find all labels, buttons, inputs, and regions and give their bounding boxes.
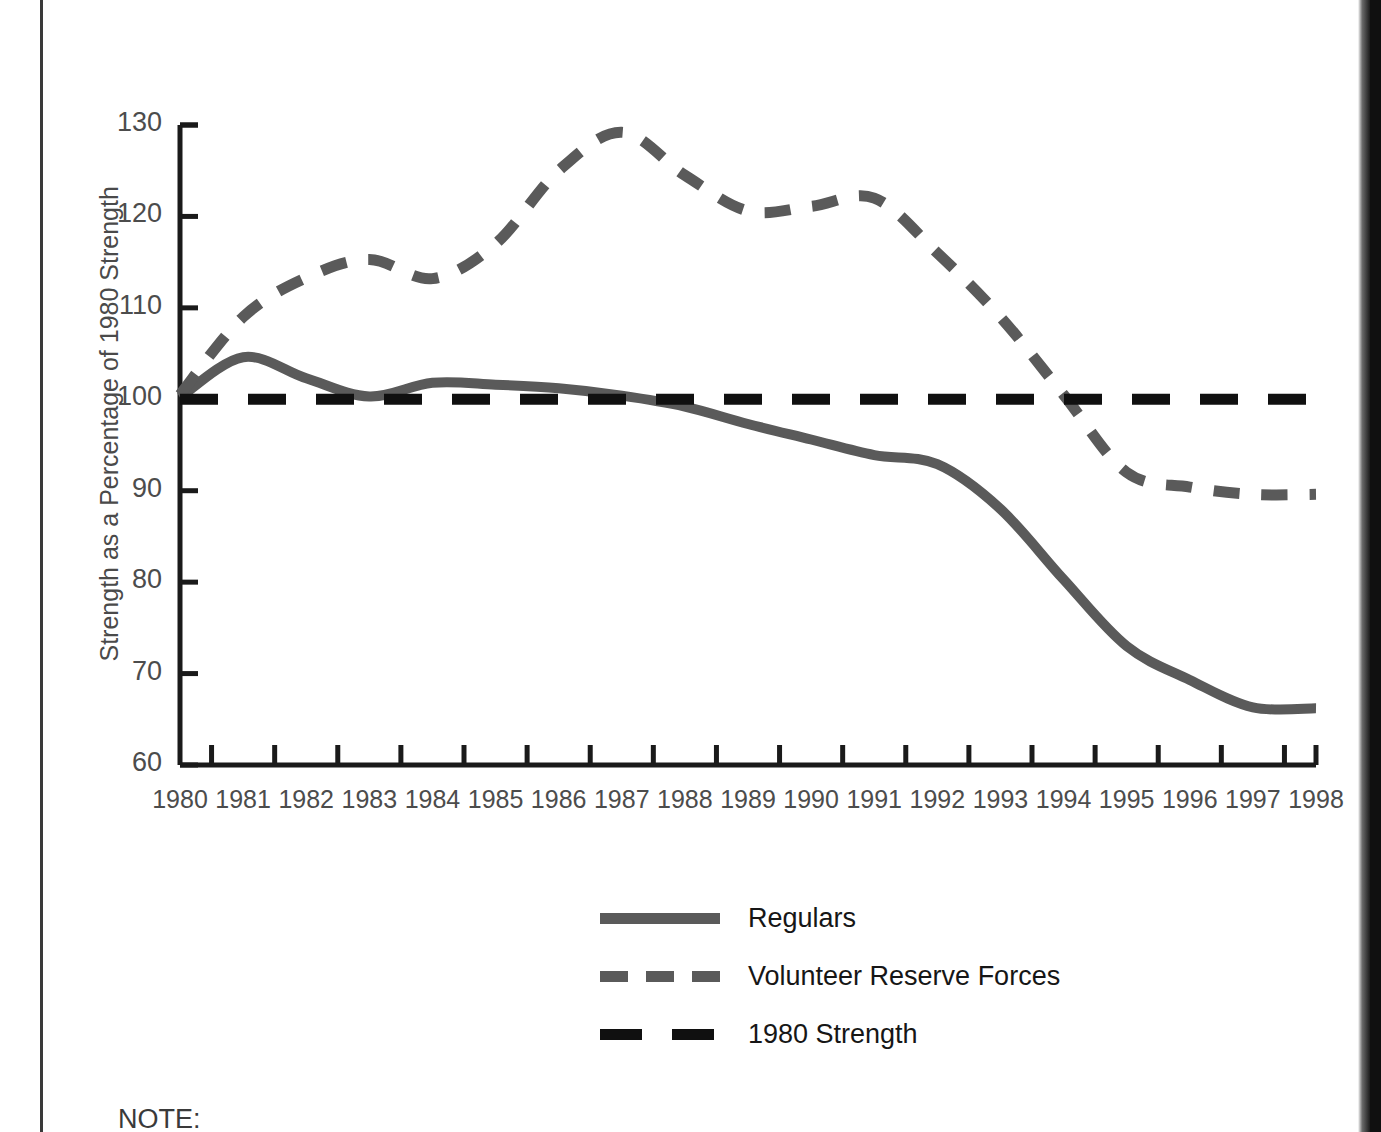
chart-series-layer <box>180 132 1316 709</box>
legend-swatch-icon <box>600 953 720 999</box>
y-axis-title: Strength as a Percentage of 1980 Strengt… <box>95 242 124 662</box>
x-tick-label: 1998 <box>1276 785 1356 814</box>
scanned-page: 60708090100110120130 1980198119821983198… <box>0 0 1381 1132</box>
legend-swatch-icon <box>600 1011 720 1057</box>
legend-item: Regulars <box>600 895 856 941</box>
note-label: NOTE: <box>118 1104 201 1132</box>
legend-swatch-icon <box>600 895 720 941</box>
page-right-border <box>1358 0 1370 1132</box>
legend-item: Volunteer Reserve Forces <box>600 953 1060 999</box>
chart-axes <box>180 125 1316 765</box>
series-line-volunteer-reserve-forces <box>180 132 1316 495</box>
legend-item: 1980 Strength <box>600 1011 918 1057</box>
legend-label: 1980 Strength <box>748 1019 918 1050</box>
y-tick-label: 60 <box>102 747 162 778</box>
chart-legend: RegularsVolunteer Reserve Forces1980 Str… <box>0 895 1381 1070</box>
page-right-border-dark <box>1370 0 1381 1132</box>
series-line-regulars <box>180 357 1316 710</box>
legend-label: Volunteer Reserve Forces <box>748 961 1060 992</box>
line-chart: 60708090100110120130 1980198119821983198… <box>0 0 1381 840</box>
chart-plot-svg <box>0 0 1381 840</box>
y-tick-label: 130 <box>102 107 162 138</box>
legend-label: Regulars <box>748 903 856 934</box>
